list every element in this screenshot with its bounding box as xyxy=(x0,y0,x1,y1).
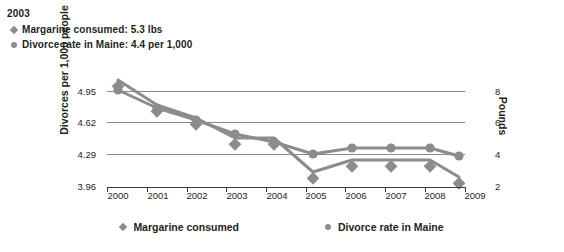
plot-area xyxy=(107,76,465,188)
right-axis-tick-0: 8 xyxy=(495,86,515,97)
x-axis-label-2004: 2004 xyxy=(255,190,299,201)
x-axis-label-2006: 2006 xyxy=(334,190,378,201)
x-axis-label-2008: 2008 xyxy=(413,190,457,201)
diamond-marker-icon xyxy=(120,224,126,230)
legend-item-margarine[interactable]: Margarine consumed xyxy=(120,221,239,233)
series-lines xyxy=(107,76,465,188)
tooltip: 2003 Margarine consumed: 5.3 lbs Divorce… xyxy=(6,8,192,51)
tooltip-divorce-text: Divorce rate in Maine: 4.4 per 1,000 xyxy=(22,39,192,50)
x-axis-line xyxy=(107,187,465,188)
x-axis-label-2000: 2000 xyxy=(96,190,140,201)
diamond-marker-icon xyxy=(6,27,22,33)
legend-item-divorce[interactable]: Divorce rate in Maine xyxy=(325,221,444,233)
tooltip-margarine-text: Margarine consumed: 5.3 lbs xyxy=(22,24,163,35)
legend-label-margarine: Margarine consumed xyxy=(133,221,239,233)
chart-canvas: 2003 Margarine consumed: 5.3 lbs Divorce… xyxy=(0,0,564,252)
circle-marker-icon xyxy=(6,42,22,48)
tooltip-year: 2003 xyxy=(7,8,192,19)
tooltip-row-divorce: Divorce rate in Maine: 4.4 per 1,000 xyxy=(6,38,192,51)
right-axis-tick-3: 2 xyxy=(495,181,515,192)
x-axis-label-2001: 2001 xyxy=(136,190,180,201)
right-axis-tick-1: 6 xyxy=(495,117,515,128)
tooltip-row-margarine: Margarine consumed: 5.3 lbs xyxy=(6,23,192,36)
left-axis-tick-3: 3.96 xyxy=(56,181,96,192)
x-axis-label-2003: 2003 xyxy=(215,190,259,201)
left-axis-tick-0: 4.95 xyxy=(56,86,96,97)
legend: Margarine consumed Divorce rate in Maine xyxy=(0,221,564,233)
x-axis-label-2005: 2005 xyxy=(294,190,338,201)
x-axis-label-2002: 2002 xyxy=(175,190,219,201)
circle-marker-icon xyxy=(325,224,331,230)
margarine-markers xyxy=(112,80,466,190)
divorce-line xyxy=(118,90,459,156)
x-axis-label-2007: 2007 xyxy=(374,190,418,201)
left-axis-tick-1: 4.62 xyxy=(56,117,96,128)
margarine-line xyxy=(118,80,459,177)
right-axis-tick-2: 4 xyxy=(495,149,515,160)
left-axis-tick-2: 4.29 xyxy=(56,149,96,160)
x-axis-label-2009: 2009 xyxy=(453,190,497,201)
legend-label-divorce: Divorce rate in Maine xyxy=(338,221,444,233)
